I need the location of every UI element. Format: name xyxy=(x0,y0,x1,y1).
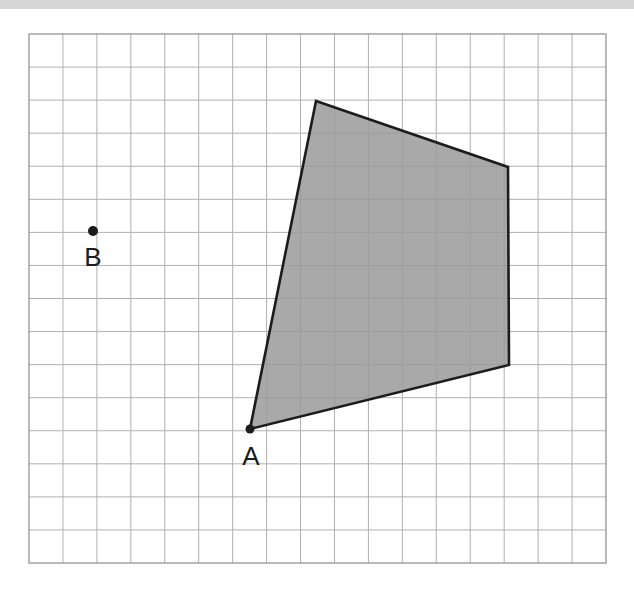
grid-figure-canvas: AB xyxy=(0,0,634,595)
point-marker-a xyxy=(246,425,255,434)
figure-root: AB xyxy=(0,0,634,595)
point-label-b: B xyxy=(84,242,101,272)
point-marker-b xyxy=(88,226,98,236)
point-label-a: A xyxy=(242,441,260,471)
